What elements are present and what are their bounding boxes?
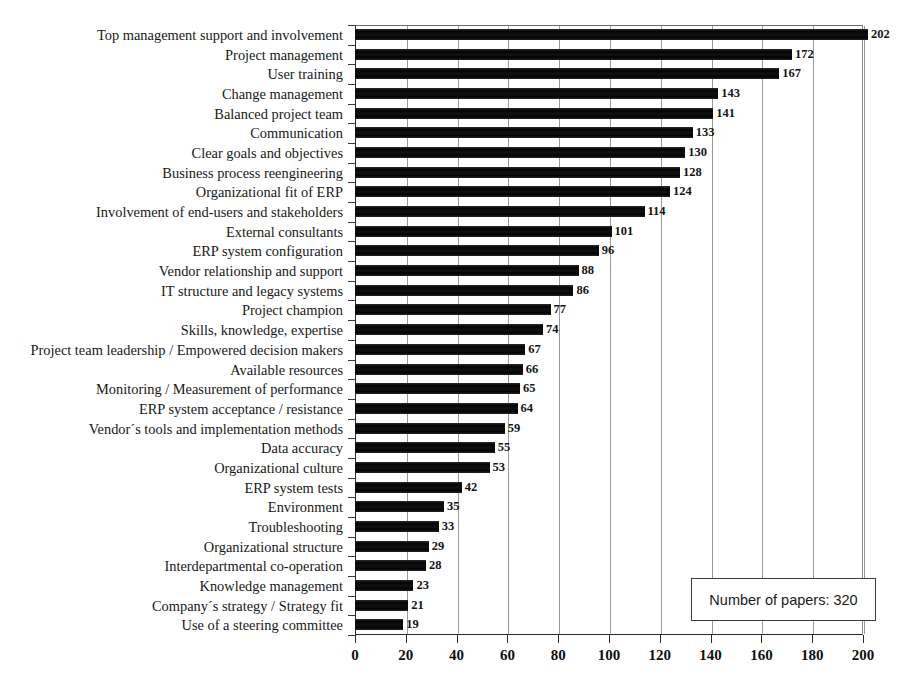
bar-value-label: 96 — [602, 242, 615, 258]
category-axis-labels: Top management support and involvementPr… — [0, 25, 349, 635]
bar-row: 35 — [355, 497, 863, 517]
bar — [355, 206, 645, 217]
x-axis-tick-40 — [457, 635, 458, 643]
bar-row: 167 — [355, 64, 863, 84]
bar-row: 28 — [355, 556, 863, 576]
y-axis-tick — [348, 615, 355, 616]
bar-row: 130 — [355, 143, 863, 163]
bar-value-label: 128 — [683, 164, 702, 180]
category-label: Communication — [250, 123, 343, 143]
bar-row: 55 — [355, 438, 863, 458]
gridline-200 — [864, 26, 865, 634]
bar — [355, 265, 579, 276]
bar-value-label: 167 — [782, 65, 801, 81]
bar-value-label: 29 — [432, 538, 445, 554]
y-axis-tick — [348, 84, 355, 85]
bar-row: 33 — [355, 517, 863, 537]
y-axis-tick — [348, 478, 355, 479]
bar — [355, 462, 490, 473]
bar-value-label: 66 — [526, 361, 539, 377]
bar-row: 133 — [355, 123, 863, 143]
x-axis-label: 180 — [789, 645, 835, 665]
category-label: Troubleshooting — [248, 517, 343, 537]
category-label: Top management support and involvement — [97, 25, 343, 45]
category-label: Company´s strategy / Strategy fit — [152, 596, 343, 616]
bar-row: 172 — [355, 45, 863, 65]
bar — [355, 127, 693, 138]
x-axis-tick-60 — [507, 635, 508, 643]
bar-row: 114 — [355, 202, 863, 222]
y-axis-tick — [348, 596, 355, 597]
x-axis-tick-200 — [863, 635, 864, 643]
bar-value-label: 124 — [673, 183, 692, 199]
bar — [355, 108, 713, 119]
bar — [355, 423, 505, 434]
category-label: Vendor´s tools and implementation method… — [89, 419, 343, 439]
bar — [355, 49, 792, 60]
y-axis-tick — [348, 182, 355, 183]
y-axis-tick — [348, 300, 355, 301]
bar-series: 2021721671431411331301281241141019688867… — [355, 25, 863, 635]
bar-row: 29 — [355, 537, 863, 557]
bar-row: 143 — [355, 84, 863, 104]
bar — [355, 482, 462, 493]
bar-value-label: 141 — [716, 105, 735, 121]
y-axis-tick — [348, 320, 355, 321]
y-axis-tick — [348, 399, 355, 400]
bar-row: 96 — [355, 241, 863, 261]
bar-value-label: 19 — [406, 616, 419, 632]
bar-row: 74 — [355, 320, 863, 340]
category-label: User training — [267, 64, 343, 84]
category-label: Project champion — [242, 300, 343, 320]
bar-value-label: 202 — [871, 26, 890, 42]
category-label: ERP system configuration — [192, 241, 343, 261]
category-label: ERP system tests — [244, 478, 343, 498]
x-axis-tick-100 — [609, 635, 610, 643]
y-axis-tick — [348, 64, 355, 65]
y-axis-tick — [348, 635, 355, 636]
y-axis-tick — [348, 537, 355, 538]
category-label: Organizational structure — [204, 537, 343, 557]
x-axis-label: 80 — [535, 645, 581, 665]
bar — [355, 541, 429, 552]
bar — [355, 521, 439, 532]
bar — [355, 442, 495, 453]
category-label: Clear goals and objectives — [192, 143, 343, 163]
category-label: Organizational fit of ERP — [196, 182, 343, 202]
bar — [355, 344, 525, 355]
category-label: Involvement of end-users and stakeholder… — [96, 202, 343, 222]
bar — [355, 304, 551, 315]
bar-value-label: 42 — [465, 479, 478, 495]
bar-value-label: 21 — [411, 597, 424, 613]
bar — [355, 324, 543, 335]
y-axis-tick — [348, 25, 355, 26]
category-label: ERP system acceptance / resistance — [139, 399, 343, 419]
category-label: Knowledge management — [200, 576, 343, 596]
x-axis-label: 160 — [738, 645, 784, 665]
horizontal-bar-chart: Top management support and involvementPr… — [0, 0, 902, 695]
bar-value-label: 172 — [795, 46, 814, 62]
bar-value-label: 143 — [721, 85, 740, 101]
category-label: Project management — [225, 45, 343, 65]
bar-value-label: 101 — [615, 223, 634, 239]
bar-value-label: 64 — [521, 400, 534, 416]
bar-value-label: 77 — [554, 301, 567, 317]
category-label: Change management — [222, 84, 343, 104]
y-axis-tick — [348, 379, 355, 380]
bar-value-label: 55 — [498, 439, 511, 455]
bar-row: 86 — [355, 281, 863, 301]
bar — [355, 403, 518, 414]
x-axis-tick-20 — [406, 635, 407, 643]
y-axis-tick — [348, 104, 355, 105]
y-axis-tick — [348, 281, 355, 282]
x-axis-label: 20 — [383, 645, 429, 665]
category-label: Monitoring / Measurement of performance — [96, 379, 343, 399]
category-label: Interdepartmental co-operation — [164, 556, 343, 576]
category-label: Available resources — [230, 360, 343, 380]
y-axis-tick — [348, 163, 355, 164]
x-axis-label: 0 — [332, 645, 378, 665]
bar — [355, 383, 520, 394]
bar — [355, 147, 685, 158]
x-axis-tick-160 — [761, 635, 762, 643]
bar — [355, 186, 670, 197]
